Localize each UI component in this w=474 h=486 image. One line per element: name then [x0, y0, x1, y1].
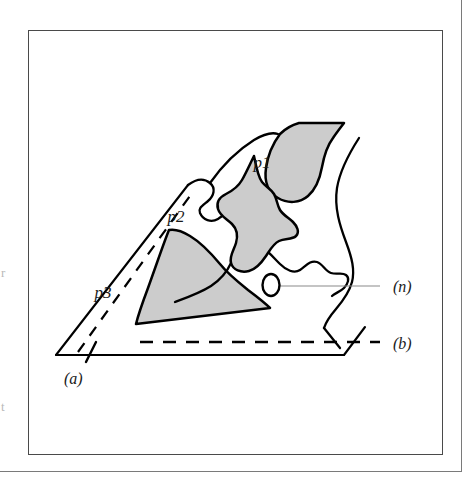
margin-cutoff-glyph-bottom: t — [1, 400, 5, 413]
callout-label-b: (b) — [393, 335, 412, 353]
callout-label-a: (a) — [64, 370, 83, 388]
callout-label-n: (n) — [393, 278, 412, 296]
figure-drawing: p1 p2 p3 (n) (b) (a) — [28, 30, 443, 455]
region-label-p3: p3 — [94, 283, 112, 302]
tick-mark-a — [86, 342, 96, 362]
small-ellipse-n — [263, 274, 280, 296]
outline-right-contour — [324, 138, 359, 328]
region-label-p2: p2 — [167, 207, 186, 226]
region-label-p1: p1 — [253, 153, 271, 172]
margin-cutoff-glyph-top: r — [1, 266, 5, 279]
outline-right-lower-tail — [324, 328, 340, 348]
figure-page: r t — [0, 0, 474, 486]
